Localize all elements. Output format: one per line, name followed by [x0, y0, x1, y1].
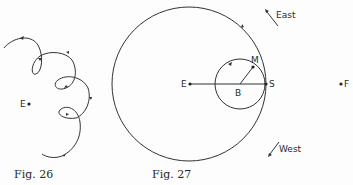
fig26-direction-arrows [20, 36, 92, 157]
fig26-earth-dot [27, 102, 30, 105]
diagram-canvas [0, 0, 353, 185]
west-arrow-icon [270, 142, 279, 154]
earth-dot [188, 82, 191, 85]
label-e: E [181, 80, 187, 89]
label-s: S [269, 80, 275, 89]
radius-line-bm [240, 67, 253, 84]
label-m: M [251, 56, 259, 65]
label-east: East [276, 11, 295, 20]
fig26-caption: Fig. 26 [14, 169, 53, 180]
label-west: West [279, 145, 301, 154]
label-f: F [344, 80, 349, 89]
large-circle-arrow-icon [241, 24, 244, 28]
small-circle-arrow-icon [228, 62, 232, 66]
moon-dot [251, 65, 254, 68]
fig26-loop-path [4, 38, 89, 157]
fig26-label-e: E [20, 100, 26, 109]
fig27-caption: Fig. 27 [152, 169, 191, 180]
label-b: B [235, 89, 241, 98]
far-point-dot [339, 82, 342, 85]
sun-dot [264, 82, 267, 85]
